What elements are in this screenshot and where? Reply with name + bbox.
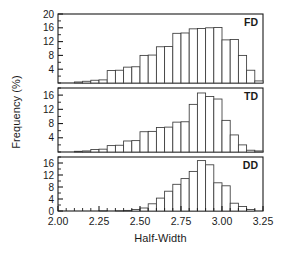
histogram-bar xyxy=(181,122,189,152)
histogram-bar xyxy=(148,204,156,211)
histogram-bar xyxy=(165,127,173,152)
histogram-bar xyxy=(214,99,222,152)
histogram-bar xyxy=(238,207,246,212)
histogram-bar xyxy=(247,210,255,212)
y-tick-label: 12 xyxy=(43,104,55,115)
histogram-bar xyxy=(140,208,148,211)
x-axis-title: Half-Width xyxy=(58,232,263,244)
histogram-bar xyxy=(173,184,181,211)
histogram-bar xyxy=(197,161,205,211)
histogram-bar xyxy=(197,28,205,83)
histogram-bar xyxy=(156,47,164,83)
histogram-bar xyxy=(181,33,189,83)
x-tick-label: 2.00 xyxy=(48,215,69,227)
histogram-bar xyxy=(115,145,123,152)
histogram-figure: Frequency (%) Half-Width 48121620FD48121… xyxy=(0,0,295,259)
histogram-bar xyxy=(124,141,132,152)
histogram-bar xyxy=(206,28,214,83)
y-tick-label: 8 xyxy=(48,118,54,129)
x-tick-label: 2.25 xyxy=(89,215,110,227)
x-tick-label: 2.50 xyxy=(130,215,151,227)
histogram-bar xyxy=(222,186,230,211)
histogram-bar xyxy=(107,146,115,152)
histogram-bar xyxy=(255,81,263,83)
chart-canvas: 48121620FD481216TD0481216DD2.002.252.502… xyxy=(0,0,295,259)
histogram-bar xyxy=(222,120,230,152)
histogram-bar xyxy=(173,33,181,83)
y-tick-label: 20 xyxy=(43,9,55,20)
histogram-bar xyxy=(206,165,214,211)
histogram-bar xyxy=(124,210,132,211)
y-tick-label: 16 xyxy=(43,90,55,101)
histogram-bar xyxy=(173,122,181,152)
histogram-bar xyxy=(247,150,255,152)
histogram-bar xyxy=(230,40,238,83)
histogram-bar xyxy=(115,70,123,83)
y-tick-label: 8 xyxy=(48,50,54,61)
y-tick-label: 12 xyxy=(43,170,55,181)
histogram-bar xyxy=(156,127,164,152)
histogram-bar xyxy=(140,132,148,152)
panel-label-td: TD xyxy=(244,90,258,102)
histogram-bar xyxy=(238,55,246,83)
histogram-bar xyxy=(255,151,263,152)
histogram-bar xyxy=(140,55,148,83)
histogram-bar xyxy=(91,80,99,83)
y-tick-label: 12 xyxy=(43,36,55,47)
histogram-bar xyxy=(181,179,189,211)
histogram-bar xyxy=(189,29,197,83)
histogram-bar xyxy=(238,145,246,152)
histogram-bar xyxy=(74,82,82,83)
histogram-bar xyxy=(124,67,132,83)
x-tick-label: 3.25 xyxy=(253,215,274,227)
histogram-bar xyxy=(214,27,222,83)
x-tick-label: 2.75 xyxy=(171,215,192,227)
histogram-bar xyxy=(230,203,238,211)
histogram-bar xyxy=(189,104,197,152)
histogram-bar xyxy=(99,80,107,83)
histogram-bar xyxy=(230,135,238,152)
histogram-bar xyxy=(214,183,222,211)
histogram-bar xyxy=(222,40,230,83)
histogram-bar xyxy=(189,171,197,211)
y-tick-label: 8 xyxy=(48,182,54,193)
histogram-bar xyxy=(83,151,91,152)
y-tick-label: 4 xyxy=(48,194,54,205)
histogram-bar xyxy=(148,131,156,152)
histogram-bar xyxy=(83,81,91,83)
y-tick-label: 4 xyxy=(48,132,54,143)
histogram-bar xyxy=(148,55,156,83)
histogram-bar xyxy=(132,67,140,83)
panel-label-dd: DD xyxy=(243,159,259,171)
histogram-bar xyxy=(206,97,214,152)
histogram-bar xyxy=(165,191,173,211)
y-axis-title: Frequency (%) xyxy=(10,52,22,172)
histogram-bar xyxy=(74,151,82,152)
histogram-bar xyxy=(99,149,107,152)
histogram-bar xyxy=(107,71,115,83)
y-tick-label: 16 xyxy=(43,158,55,169)
histogram-bar xyxy=(247,70,255,83)
histogram-bar xyxy=(91,150,99,152)
y-tick-label: 16 xyxy=(43,22,55,33)
y-tick-label: 4 xyxy=(48,64,54,75)
histogram-bar xyxy=(132,210,140,212)
histogram-bar xyxy=(165,46,173,83)
histogram-bar xyxy=(197,93,205,152)
histogram-bar xyxy=(156,198,164,211)
panel-label-fd: FD xyxy=(244,16,258,28)
histogram-bar xyxy=(132,141,140,152)
x-tick-label: 3.00 xyxy=(212,215,233,227)
